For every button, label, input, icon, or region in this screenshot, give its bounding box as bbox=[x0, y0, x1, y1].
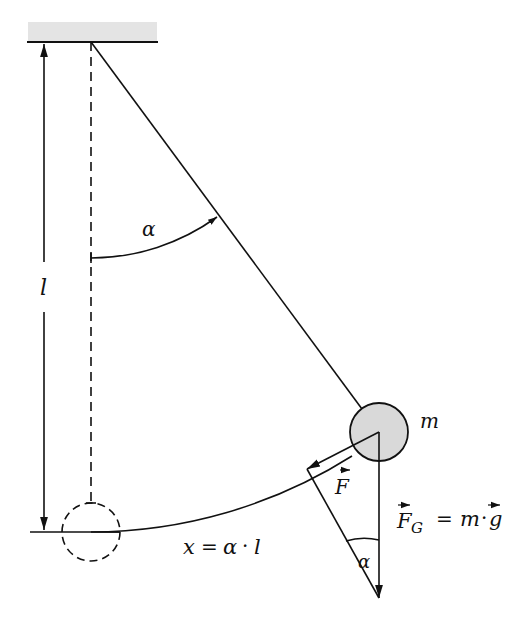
svg-text:=: = bbox=[436, 507, 453, 531]
svg-text:G: G bbox=[411, 519, 423, 537]
tangential-force-label: F bbox=[334, 470, 350, 499]
gravity-equation: F G = m · g bbox=[396, 505, 502, 537]
pendulum-string bbox=[91, 42, 362, 409]
angle-label-top: α bbox=[142, 217, 156, 241]
svg-text:m: m bbox=[460, 507, 480, 531]
svg-text:x: x bbox=[183, 535, 195, 559]
svg-text:·: · bbox=[242, 534, 248, 558]
pendulum-diagram: l α m α F F G = m · g x = α · l bbox=[0, 0, 532, 628]
swing-arc bbox=[91, 456, 352, 532]
svg-text:F: F bbox=[334, 475, 350, 499]
angle-label-bottom: α bbox=[358, 551, 370, 572]
svg-text:·: · bbox=[481, 506, 487, 530]
svg-text:α: α bbox=[223, 535, 237, 559]
mass-label: m bbox=[420, 409, 439, 433]
length-label: l bbox=[40, 275, 47, 300]
svg-text:l: l bbox=[254, 535, 261, 559]
svg-text:g: g bbox=[489, 507, 502, 531]
arc-length-equation: x = α · l bbox=[183, 534, 261, 559]
svg-text:=: = bbox=[201, 535, 218, 559]
ceiling bbox=[27, 22, 158, 42]
angle-arc-bottom bbox=[346, 538, 379, 541]
